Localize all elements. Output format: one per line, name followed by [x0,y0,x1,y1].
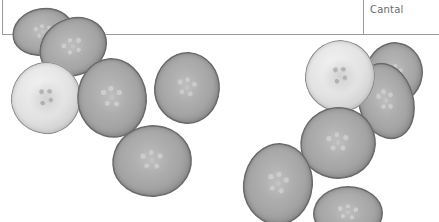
seed-pattern [335,202,360,222]
cucumber-photo: Cantal [0,0,439,222]
seed-pattern [174,73,200,103]
table-left-border [2,0,3,35]
seed-pattern [372,83,400,118]
seed-pattern [98,81,126,115]
seed-pattern [57,31,90,63]
cucumber-slice [313,186,383,222]
seed-pattern [136,145,167,176]
seed-pattern [264,166,292,201]
cucumber-slice [152,50,223,126]
seed-pattern [322,127,353,159]
seed-pattern [32,82,61,114]
table-cell-cantal: Cantal [370,4,403,15]
seed-pattern [326,60,354,91]
table-column-divider [363,0,364,35]
